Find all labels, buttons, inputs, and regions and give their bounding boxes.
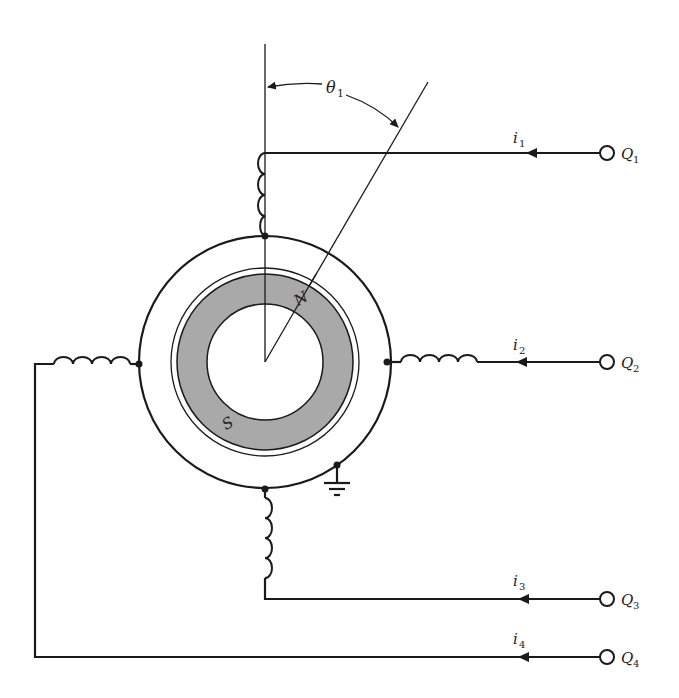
angle-theta-label: θ xyxy=(326,78,336,97)
svg-text:i: i xyxy=(513,630,518,648)
angle-theta-subscript: 1 xyxy=(337,87,344,100)
svg-text:4: 4 xyxy=(633,658,639,669)
svg-text:2: 2 xyxy=(633,363,639,374)
svg-text:2: 2 xyxy=(519,345,525,356)
node-dot-left xyxy=(136,361,143,368)
svg-text:i: i xyxy=(513,336,518,354)
terminal-q3: Q 3 xyxy=(600,591,639,611)
svg-text:Q: Q xyxy=(621,591,633,609)
terminal-q4: Q 4 xyxy=(600,649,639,669)
svg-text:Q: Q xyxy=(621,145,633,163)
coil-phase-3: i 3 xyxy=(265,490,600,604)
current-arrow-1 xyxy=(526,148,537,158)
svg-text:4: 4 xyxy=(519,639,525,650)
svg-text:3: 3 xyxy=(633,600,639,611)
svg-text:1: 1 xyxy=(519,138,525,149)
svg-text:Q: Q xyxy=(621,649,633,667)
terminal-q1: Q 1 xyxy=(600,145,639,165)
current-arrow-2 xyxy=(516,357,527,367)
coil-phase-1: i 1 xyxy=(258,129,600,236)
node-dot-top xyxy=(262,233,269,240)
svg-text:3: 3 xyxy=(519,581,525,592)
terminal-q2: Q 2 xyxy=(600,354,639,374)
svg-text:Q: Q xyxy=(621,354,633,372)
ground-icon xyxy=(324,462,350,496)
stepper-motor-diagram: θ 1 N S i 1 i 2 i 3 xyxy=(0,0,679,698)
current-arrow-4 xyxy=(518,652,529,662)
svg-text:i: i xyxy=(513,572,518,590)
svg-text:i: i xyxy=(513,129,518,147)
angle-theta-arc: θ 1 xyxy=(268,78,398,127)
current-arrow-3 xyxy=(518,594,529,604)
svg-text:1: 1 xyxy=(633,154,639,165)
coil-phase-2: i 2 xyxy=(387,336,600,367)
node-dot-bottom xyxy=(262,486,269,493)
node-dot-right xyxy=(384,359,391,366)
